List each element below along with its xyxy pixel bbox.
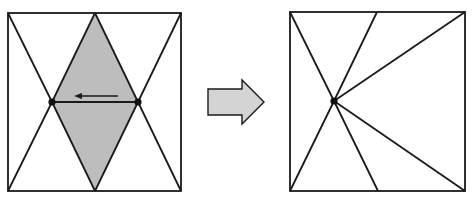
transition-arrow-icon xyxy=(208,80,264,124)
spoke-bottom-left xyxy=(290,101,334,191)
after-square xyxy=(290,12,465,191)
right-vertex xyxy=(134,98,141,105)
spoke-top-right xyxy=(334,12,465,101)
spoke-top-mid xyxy=(334,12,377,101)
before-panel xyxy=(8,13,181,191)
edge-br-to-right-vertex xyxy=(138,102,181,191)
after-panel xyxy=(290,12,465,191)
spoke-top-left xyxy=(290,12,334,101)
hub-vertex xyxy=(330,97,337,104)
spoke-bottom-right xyxy=(334,101,465,191)
spoke-bottom-mid xyxy=(334,101,378,191)
edge-tr-to-right-vertex xyxy=(138,13,181,102)
edge-tl-to-left-vertex xyxy=(8,13,52,102)
left-vertex xyxy=(48,98,55,105)
edge-bl-to-left-vertex xyxy=(8,102,52,191)
diagram-canvas xyxy=(0,0,475,198)
